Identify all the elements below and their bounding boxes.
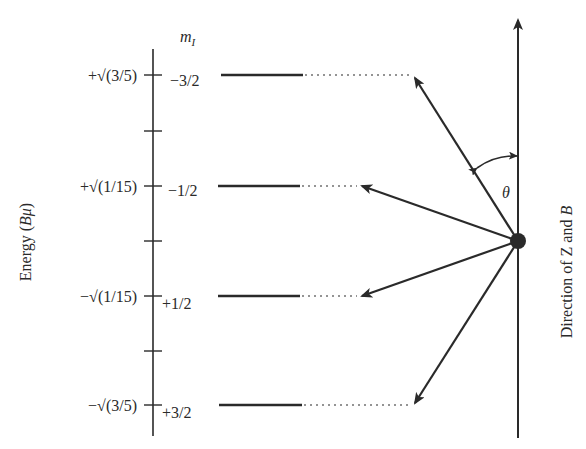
energy-level-lines [218, 75, 303, 405]
energy-label-0: +√(3/5) [88, 67, 137, 85]
m-i-header: mI [180, 28, 197, 48]
spin-vectors [362, 78, 518, 403]
spin-vector-m-plus-3-2 [415, 241, 518, 403]
energy-tick-labels: +√(3/5) +√(1/15) −√(1/15) −√(3/5) [80, 67, 137, 415]
spin-vector-m-minus-3-2 [415, 78, 518, 241]
origin-dot [510, 233, 526, 249]
theta-label: θ [502, 184, 510, 201]
theta-arc [477, 156, 517, 168]
m-i-label-3: +3/2 [162, 404, 191, 421]
m-i-label-1: −1/2 [168, 182, 197, 199]
energy-label-3: −√(3/5) [88, 397, 137, 415]
spin-vector-m-plus-1-2 [362, 241, 518, 296]
energy-label-2: −√(1/15) [80, 288, 137, 306]
energy-label-1: +√(1/15) [80, 178, 137, 196]
m-i-labels: −3/2 −1/2 +1/2 +3/2 [162, 72, 199, 421]
m-i-label-2: +1/2 [162, 295, 191, 312]
spin-vector-m-minus-1-2 [362, 186, 518, 241]
energy-level-diagram: Energy (Bμ) mI +√(3/5) +√(1/15) −√(1/15)… [0, 0, 586, 449]
projection-lines [302, 75, 410, 405]
m-i-label-0: −3/2 [170, 72, 199, 89]
direction-label: Direction of Z and B [558, 206, 575, 339]
energy-axis-label: Energy (Bμ) [17, 203, 35, 281]
